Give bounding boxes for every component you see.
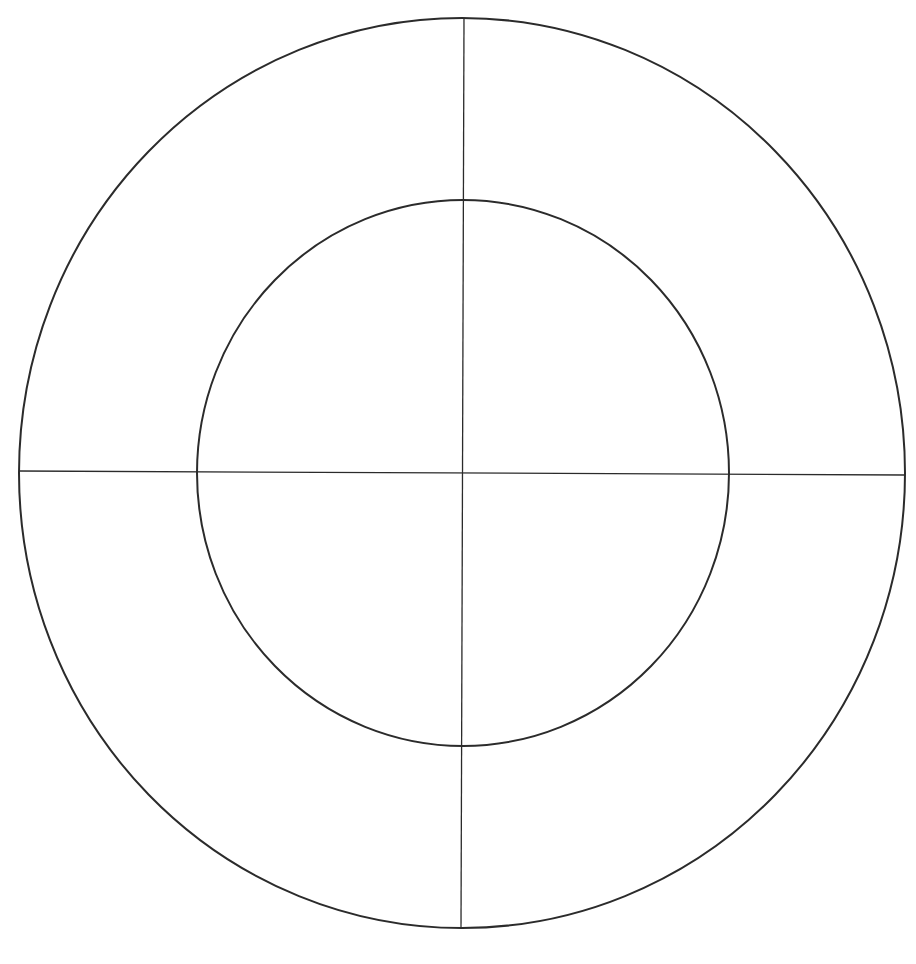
concentric-circle-diagram [0,0,916,964]
diagram-canvas [0,0,916,964]
